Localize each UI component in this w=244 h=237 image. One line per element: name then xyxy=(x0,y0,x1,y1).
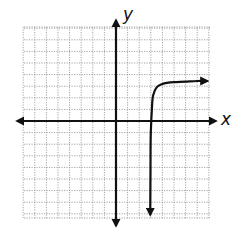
coordinate-plane xyxy=(0,0,244,237)
x-axis-label: x xyxy=(221,111,231,128)
y-axis-label: y xyxy=(123,6,133,23)
function-curve xyxy=(150,81,207,215)
